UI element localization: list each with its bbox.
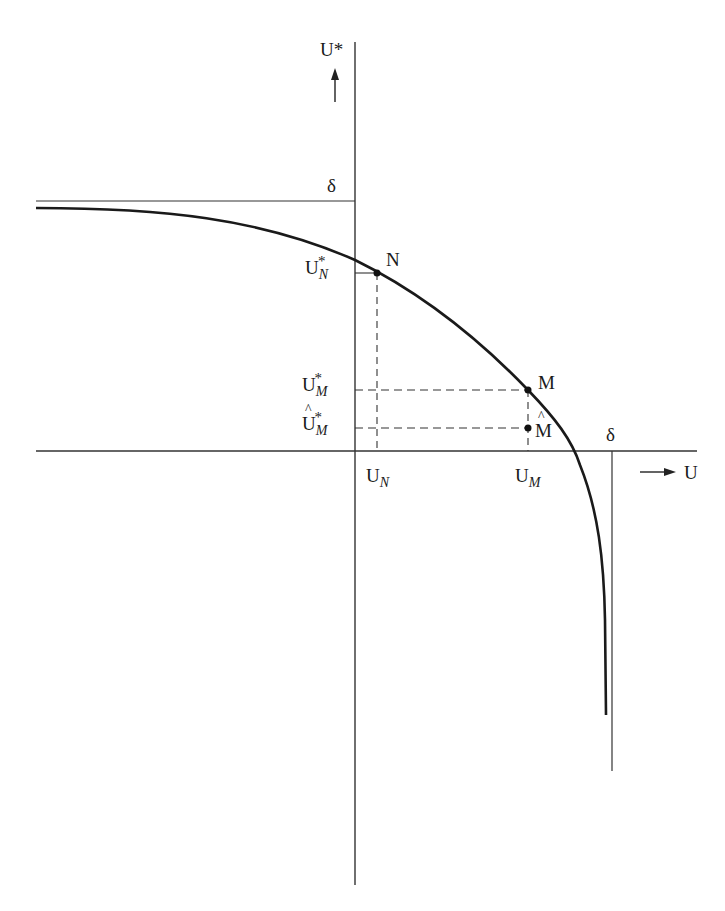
y-tick-M-sup: * bbox=[314, 370, 322, 386]
x-tick-N-base: U bbox=[366, 465, 380, 486]
y-tick-U-hat-star-M: UM* bbox=[302, 414, 322, 433]
horizontal-asymptote-label: δ bbox=[327, 176, 336, 195]
point-M-hat-label: M bbox=[535, 421, 552, 440]
y-tick-Mhat-sup: * bbox=[314, 409, 322, 425]
x-tick-U-N: UN bbox=[366, 466, 389, 485]
point-M-label: M bbox=[538, 373, 555, 392]
up-arrowhead-icon bbox=[331, 68, 339, 80]
vertical-asymptote-label: δ bbox=[606, 425, 615, 444]
y-tick-U-star-M: UM* bbox=[302, 375, 322, 394]
y-tick-N-sup: * bbox=[318, 253, 326, 269]
x-tick-M-sub: M bbox=[529, 475, 541, 490]
point-M-hat-label-text: M bbox=[535, 421, 552, 440]
point-N-label: N bbox=[386, 250, 400, 269]
y-tick-Mhat-sub: M bbox=[316, 423, 328, 438]
point-M-hat bbox=[525, 425, 532, 432]
y-tick-U-star-N: UN* bbox=[305, 258, 326, 277]
point-N bbox=[374, 270, 381, 277]
x-axis-label: U bbox=[684, 463, 698, 482]
y-tick-N-base: U bbox=[305, 257, 319, 278]
x-tick-M-base: U bbox=[515, 465, 529, 486]
diagram-canvas bbox=[0, 0, 725, 911]
x-tick-N-sub: N bbox=[380, 475, 389, 490]
y-tick-M-sub: M bbox=[316, 384, 328, 399]
x-tick-U-M: UM bbox=[515, 466, 540, 485]
right-arrowhead-icon bbox=[664, 468, 676, 476]
x-axis-label-text: U bbox=[684, 462, 698, 483]
y-axis-label: U* bbox=[320, 40, 343, 59]
frontier-curve bbox=[36, 208, 606, 715]
y-axis-label-text: U* bbox=[320, 39, 343, 60]
point-M bbox=[525, 387, 532, 394]
y-tick-N-sub: N bbox=[319, 267, 328, 282]
